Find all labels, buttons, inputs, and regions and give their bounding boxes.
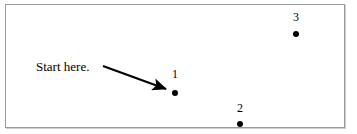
point-dot-1 [172, 90, 178, 96]
figure-container: Start here. 1 2 3 [0, 0, 357, 134]
point-label-3: 3 [293, 11, 299, 23]
start-here-label: Start here. [36, 60, 89, 74]
point-dot-2 [237, 121, 243, 127]
point-label-1: 1 [172, 68, 178, 80]
arrow-line [103, 66, 166, 89]
point-dot-3 [293, 31, 299, 37]
point-label-2: 2 [237, 102, 243, 114]
diagram-canvas: Start here. 1 2 3 [0, 0, 357, 134]
